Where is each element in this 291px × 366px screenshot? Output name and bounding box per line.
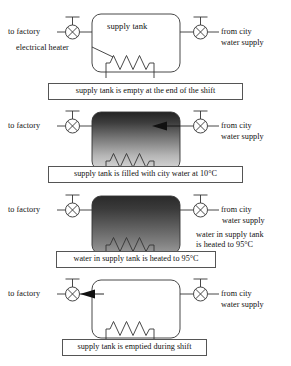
panel-2-left-label: to factory	[8, 121, 40, 131]
valve-icon-right	[194, 195, 208, 217]
diagram-page: to factory from city water supply supply…	[0, 0, 291, 366]
panel-1-caption: supply tank is empty at the end of the s…	[48, 83, 243, 100]
panel-4-right-label-1: from city	[221, 289, 252, 299]
panel-1-empty: to factory from city water supply supply…	[0, 0, 291, 102]
panel-2-right-label-1: from city	[221, 121, 252, 131]
panel-2-caption: supply tank is filled with city water at…	[48, 166, 243, 183]
heater-label: electrical heater	[16, 43, 69, 53]
panel-3-caption: water in supply tank is heated to 95°C	[56, 251, 216, 268]
panel-4-left-label: to factory	[8, 289, 40, 299]
panel-1-left-label: to factory	[8, 27, 40, 37]
panel-2-filling: to factory from city water supply supply…	[0, 104, 291, 186]
panel-2-right-label-2: water supply	[221, 132, 264, 142]
panel-4-caption: supply tank is emptied during shift	[62, 339, 207, 356]
panel-4-emptying: to factory from city water supply supply…	[0, 272, 291, 366]
valve-icon-right	[194, 111, 208, 133]
panel-3-side-note-2: is heated to 95°C	[196, 240, 253, 250]
tank-label: supply tank	[107, 22, 147, 32]
valve-icon-right	[194, 17, 208, 39]
valve-icon-left	[66, 279, 80, 301]
valve-icon-left	[66, 195, 80, 217]
valve-icon-left	[66, 17, 80, 39]
panel-3-heating: to factory from city water supply water …	[0, 188, 291, 272]
panel-3-side-note-1: water in supply tank	[196, 230, 264, 240]
panel-4-right-label-2: water supply	[221, 300, 264, 310]
valve-icon-right	[194, 279, 208, 301]
valve-icon-left	[66, 111, 80, 133]
panel-1-right-label-2: water supply	[221, 38, 264, 48]
panel-3-right-label-2: water supply	[222, 216, 265, 226]
panel-3-left-label: to factory	[8, 205, 40, 215]
panel-1-right-label-1: from city	[221, 27, 252, 37]
panel-3-right-label-1: from city	[221, 205, 252, 215]
